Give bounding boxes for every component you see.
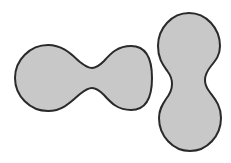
image-canvas — [0, 0, 231, 163]
shapes-svg — [0, 0, 231, 163]
